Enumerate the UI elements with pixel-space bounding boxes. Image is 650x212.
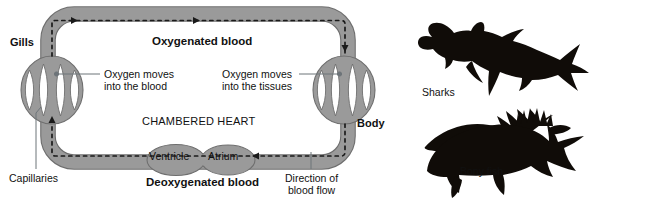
bony-fish-icon [425,108,584,198]
hammerhead-shark-icon [418,22,589,96]
diagram-canvas: Gills Body Oxygenated blood Deoxygenated… [0,0,650,212]
fish-silhouettes [0,0,650,212]
label-sharks: Sharks [422,86,455,98]
label-bony-fish: Bony fish [460,165,503,177]
